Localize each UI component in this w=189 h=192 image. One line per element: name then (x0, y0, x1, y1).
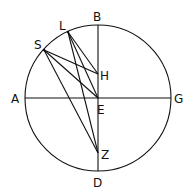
segment-LE (68, 32, 98, 98)
segment-SE (44, 50, 98, 98)
geometry-diagram: A G B D E L S H Z (0, 0, 189, 192)
label-D: D (93, 176, 102, 190)
point-S (43, 49, 46, 52)
segment-SZ (44, 50, 98, 153)
label-L: L (59, 19, 66, 33)
label-S: S (34, 38, 42, 52)
label-A: A (11, 92, 20, 106)
label-E: E (97, 103, 105, 117)
point-L (67, 31, 70, 34)
label-B: B (93, 10, 101, 24)
label-Z: Z (101, 148, 109, 162)
label-H: H (100, 69, 109, 83)
segment-LZ (68, 32, 98, 153)
label-G: G (174, 92, 183, 106)
